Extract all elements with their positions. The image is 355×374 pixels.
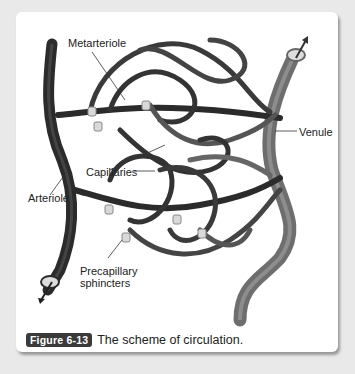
label-precapillary-sphincters: Precapillary sphincters (80, 265, 137, 289)
label-arteriole: Arteriole (28, 192, 69, 204)
capillary-network (58, 40, 280, 254)
circulation-diagram (0, 0, 355, 374)
venule-vessel (240, 60, 292, 320)
arteriole-vessel (48, 44, 72, 290)
label-metarteriole: Metarteriole (68, 37, 126, 49)
label-venule: Venule (299, 126, 333, 138)
caption-text: The scheme of circulation. (97, 333, 243, 347)
figure-number-badge: Figure 6-13 (26, 333, 92, 347)
label-capillaries: Capillaries (86, 166, 137, 178)
figure-caption: Figure 6-13 The scheme of circulation. (26, 333, 243, 347)
